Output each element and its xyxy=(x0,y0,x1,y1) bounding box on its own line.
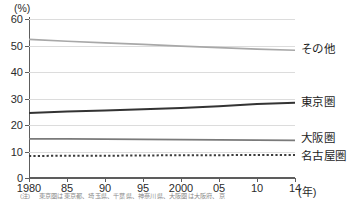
series-lines-group xyxy=(29,19,295,178)
footnote-body: 東京圏は東京都、埼玉県、千葉県、神奈川県、大阪圏は大阪府、京 xyxy=(39,192,225,199)
series-label-東京圏: 東京圏 xyxy=(301,97,335,109)
footnote: (注) 東京圏は東京都、埼玉県、千葉県、神奈川県、大阪圏は大阪府、京 xyxy=(20,192,350,200)
y-axis-tick-label: 10 xyxy=(11,146,23,157)
series-line xyxy=(29,155,295,156)
series-label-大阪圏: 大阪圏 xyxy=(301,134,335,146)
y-axis-tick-label: 30 xyxy=(11,93,23,104)
y-axis-tick-label: 50 xyxy=(11,40,23,51)
y-axis-tick-label: 40 xyxy=(11,67,23,78)
y-axis-tick-label: 60 xyxy=(11,14,23,25)
series-line xyxy=(29,139,295,141)
series-line xyxy=(29,103,295,113)
footnote-marker: (注) xyxy=(20,192,30,199)
series-line xyxy=(29,39,295,50)
series-label-名古屋圏: 名古屋圏 xyxy=(301,151,346,163)
series-label-その他: その他 xyxy=(301,45,335,57)
y-axis-tick-label: 20 xyxy=(11,120,23,131)
